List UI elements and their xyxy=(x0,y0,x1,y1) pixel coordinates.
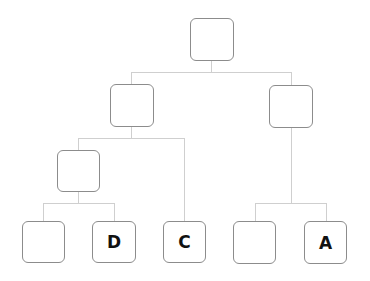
connector-to-leaf-5 xyxy=(326,203,327,221)
connector-left-left-bar xyxy=(43,203,115,204)
connector-to-leaf-2 xyxy=(114,203,115,221)
connector-root-down xyxy=(211,60,212,72)
connector-to-leaf-1 xyxy=(43,203,44,221)
node-leaf-a: A xyxy=(304,221,347,264)
connector-to-leaf-4 xyxy=(255,203,256,221)
connector-to-leaf-3 xyxy=(184,138,185,221)
node-leaf-1 xyxy=(22,221,65,263)
connector-left-down xyxy=(131,126,132,138)
connector-right-bar xyxy=(255,203,327,204)
connector-to-left-left xyxy=(78,138,79,150)
connector-left-left-down xyxy=(78,191,79,203)
node-leaf-c: C xyxy=(163,221,206,263)
node-right xyxy=(269,85,313,128)
node-leaf-4 xyxy=(233,221,276,264)
node-root xyxy=(190,18,234,61)
connector-to-left xyxy=(131,72,132,84)
connector-right-down xyxy=(291,127,292,203)
node-left-left xyxy=(57,150,100,192)
node-left xyxy=(110,84,154,127)
connector-root-bar xyxy=(131,72,292,73)
node-leaf-d: D xyxy=(92,221,136,263)
connector-left-bar xyxy=(78,138,185,139)
connector-to-right xyxy=(291,72,292,85)
